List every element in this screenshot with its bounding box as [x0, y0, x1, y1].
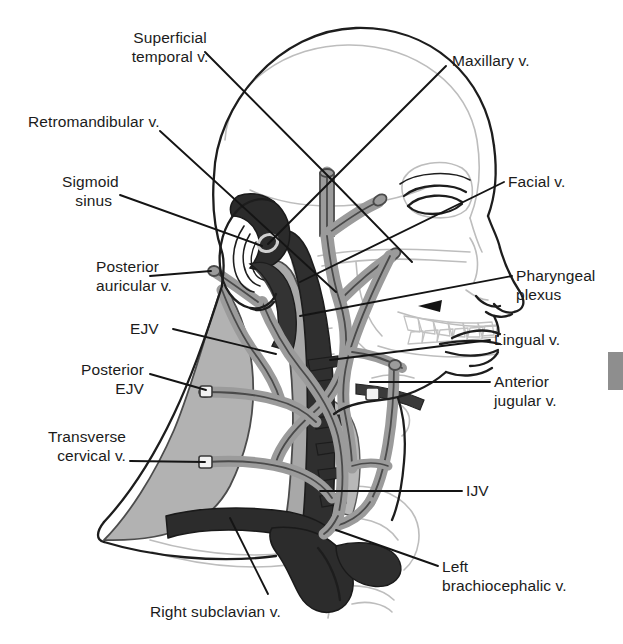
label-superficial-temporal: Superficial temporal v.	[104, 28, 236, 66]
label-right-subclavian: Right subclavian v.	[150, 602, 281, 621]
label-ijv: IJV	[466, 481, 489, 500]
leader-maxillary	[330, 66, 446, 182]
label-transverse-cervical: Transverse cervical v.	[18, 427, 126, 465]
label-anterior-jugular: Anterior jugular v.	[494, 372, 557, 410]
label-pharyngeal-plexus: Pharyngeal plexus	[516, 266, 595, 304]
pharyngeal-arrowhead	[418, 300, 442, 312]
label-ejv: EJV	[130, 319, 159, 338]
label-retromandibular: Retromandibular v.	[28, 112, 160, 131]
page-edge-tab	[608, 352, 623, 390]
anatomy-illustration	[0, 0, 623, 644]
label-maxillary: Maxillary v.	[452, 51, 530, 70]
leader-superficial-temporal	[205, 52, 330, 178]
label-sigmoid-sinus: Sigmoid sinus	[62, 172, 112, 210]
figure-canvas: Superficial temporal v. Retromandibular …	[0, 0, 623, 644]
label-facial: Facial v.	[508, 172, 565, 191]
label-posterior-auricular: Posterior auricular v.	[96, 257, 146, 295]
trapezius-muscle	[104, 286, 253, 540]
label-posterior-ejv: Posterior EJV	[58, 360, 144, 398]
leader-transverse-cervical	[130, 461, 205, 462]
label-lingual: Lingual v.	[494, 330, 560, 349]
leader-retromandibular	[160, 131, 336, 292]
leader-posterior-auricular	[150, 271, 211, 276]
label-left-brachiocephalic: Left brachiocephalic v.	[442, 557, 567, 595]
